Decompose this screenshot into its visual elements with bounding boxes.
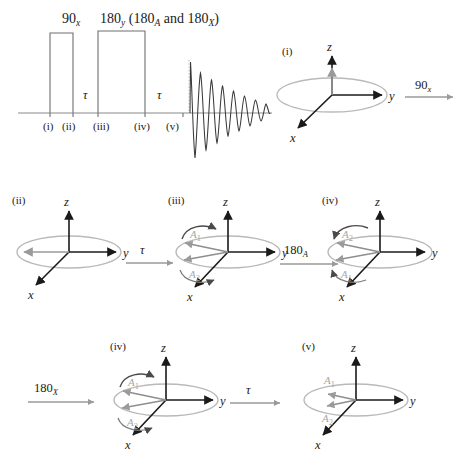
x-axis-label: x — [124, 438, 131, 452]
delay-tau-2: τ — [157, 88, 162, 102]
x-axis-label: x — [186, 290, 193, 304]
timeline-mark-ii: (ii) — [62, 120, 76, 133]
z-axis-label: z — [63, 195, 69, 209]
panel-v: (v) z y x A1 A2 — [284, 332, 444, 467]
y-axis-label: y — [430, 246, 438, 260]
y-axis-label: y — [408, 394, 416, 408]
pulse2-label: 180y (180A and 180X) — [100, 11, 219, 28]
panel-iv-after-180A: (iv) z y x A2 A1 — [312, 186, 460, 316]
timeline-mark-v: (v) — [166, 120, 179, 133]
fid-signal — [190, 62, 270, 158]
delay-tau-1: τ — [83, 88, 88, 102]
vector-a1 — [328, 394, 356, 400]
z-axis-label: z — [160, 341, 166, 355]
vector-a1 — [123, 391, 166, 400]
z-axis-label: z — [350, 341, 356, 355]
transition-tau-2: τ — [222, 378, 288, 418]
timeline-mark-iii: (iii) — [93, 120, 110, 133]
vector-a2 — [337, 243, 380, 252]
x-axis-label: x — [314, 438, 321, 452]
pulse-rect-90x — [50, 33, 73, 113]
panel-i-caption: (i) — [282, 45, 293, 58]
transition-label-tau: τ — [246, 383, 251, 397]
vector-a1 — [185, 243, 228, 252]
transition-label-180X: 180X — [34, 381, 59, 397]
panel-iv-caption: (iv) — [322, 194, 338, 207]
z-axis-label: z — [222, 195, 228, 209]
transition-180X: 180X — [22, 374, 107, 418]
pulse-sequence-panel: 90x 180y (180A and 180X) τ τ (i) (ii) (i… — [0, 0, 280, 175]
z-axis-label: z — [326, 40, 332, 54]
timeline-mark-iv: (iv) — [134, 120, 150, 133]
pulse1-label: 90x — [62, 11, 81, 28]
figure-canvas: 90x 180y (180A and 180X) τ τ (i) (ii) (i… — [0, 0, 460, 471]
z-axis-label: z — [374, 195, 380, 209]
transition-label-tau: τ — [140, 243, 145, 257]
pulse-rect-180y — [98, 31, 145, 113]
x-axis-label: x — [27, 288, 34, 302]
transition-label-180A: 180A — [284, 243, 309, 259]
timeline-mark-i: (i) — [43, 120, 54, 133]
panel-ii-caption: (ii) — [12, 194, 26, 207]
panel-iv-caption: (iv) — [110, 340, 126, 353]
transition-label-90x: 90x — [415, 78, 432, 94]
x-axis-label: x — [338, 290, 345, 304]
x-axis-label: x — [289, 131, 296, 145]
y-axis-label: y — [387, 89, 395, 103]
panel-v-caption: (v) — [302, 340, 315, 353]
panel-iii-caption: (iii) — [168, 194, 185, 207]
panel-i: (i) z y x 90x — [268, 35, 460, 165]
